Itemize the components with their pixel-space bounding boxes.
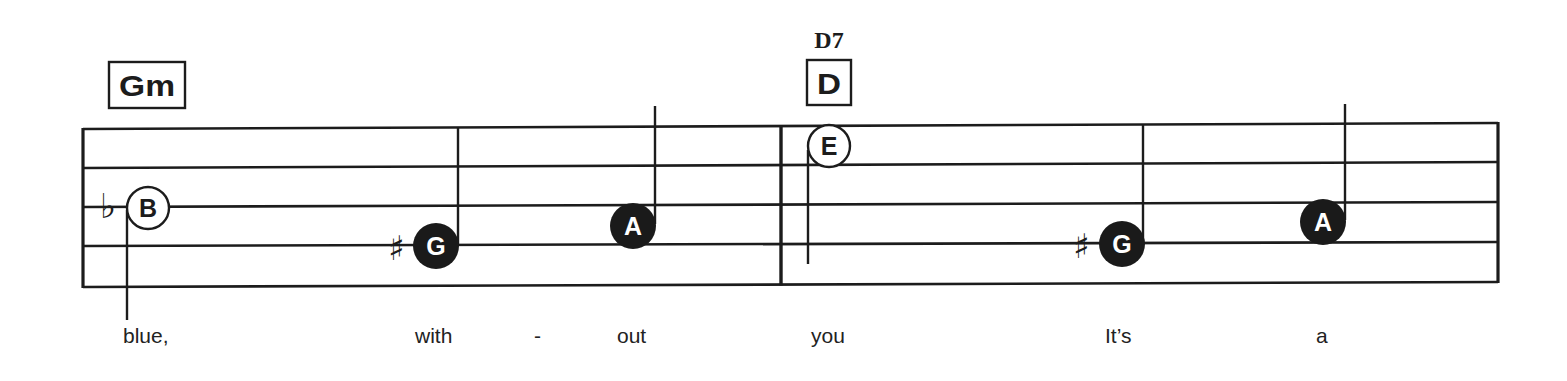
chord-symbols: GmDD7 xyxy=(109,27,851,108)
staff-line-3 xyxy=(83,202,1498,207)
sheet-music-score: GmDD7 B♭G♯AEG♯A blue,with-outyouIt’sa xyxy=(0,0,1567,381)
note-a: A xyxy=(610,203,656,249)
lyric-syllable: - xyxy=(534,324,541,347)
note-letter: G xyxy=(1112,230,1131,258)
chord-symbol: Gm xyxy=(109,62,185,108)
chord-symbol: DD7 xyxy=(807,27,851,105)
lyric-syllable: out xyxy=(617,324,646,347)
note-letter: B xyxy=(139,194,157,222)
note-g: G♯ xyxy=(1073,221,1145,267)
note-letter: A xyxy=(1314,208,1332,236)
lyric-syllable: you xyxy=(811,324,845,347)
chord-box-label: Gm xyxy=(119,69,175,102)
sharp-icon: ♯ xyxy=(1073,226,1089,266)
lyric-syllable: a xyxy=(1316,324,1328,347)
lyric-syllable: It’s xyxy=(1105,324,1131,347)
note-b: B♭ xyxy=(100,186,169,229)
note-a: A xyxy=(1300,199,1346,245)
note-stems xyxy=(127,104,1345,320)
staff-line-5 xyxy=(83,282,1498,287)
chord-box-label: D xyxy=(817,67,841,100)
flat-icon: ♭ xyxy=(100,186,116,226)
lyric-syllable: with xyxy=(414,324,452,347)
note-e: E xyxy=(808,125,850,167)
note-letter: E xyxy=(821,132,838,160)
lyrics: blue,with-outyouIt’sa xyxy=(123,324,1328,347)
staff-line-2 xyxy=(83,162,1498,168)
note-letter: A xyxy=(624,212,642,240)
staff-line-1 xyxy=(83,123,1498,129)
notes: B♭G♯AEG♯A xyxy=(100,125,1346,269)
note-g: G♯ xyxy=(388,223,459,269)
chord-name-label: D7 xyxy=(814,27,843,53)
sharp-icon: ♯ xyxy=(388,228,404,268)
staff xyxy=(83,123,1498,287)
note-letter: G xyxy=(426,232,445,260)
lyric-syllable: blue, xyxy=(123,324,169,347)
staff-line-4 xyxy=(83,242,1498,246)
